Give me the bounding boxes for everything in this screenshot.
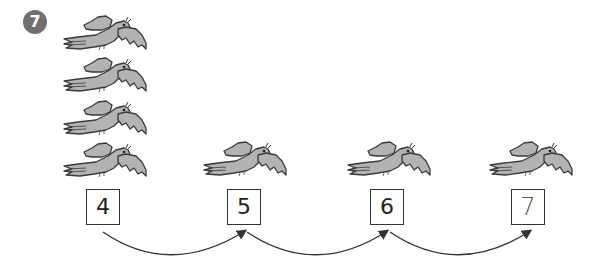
progression-arrows	[0, 0, 605, 277]
arrow-6-to-7	[390, 231, 530, 255]
arrow-4-to-5	[103, 231, 245, 255]
arrow-5-to-6	[247, 231, 387, 255]
